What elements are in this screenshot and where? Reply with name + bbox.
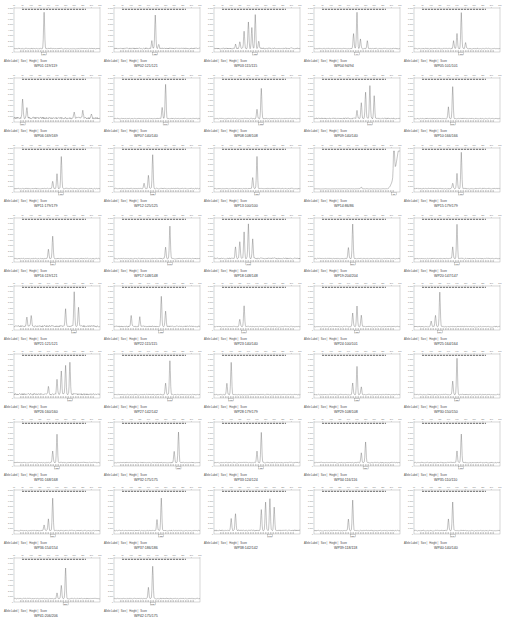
legend-label: Size | <box>21 542 27 545</box>
trace-plot: 608010012014016018020022024026001,0002,0… <box>104 2 204 60</box>
trace-plot: 608010012014016018020022024026001,0002,0… <box>204 280 304 338</box>
legend-label: Height | <box>429 338 438 341</box>
svg-text:1,000: 1,000 <box>8 595 14 598</box>
svg-text:3,000: 3,000 <box>108 380 114 383</box>
svg-text:6,000: 6,000 <box>408 158 414 161</box>
legend-line: Allele Label |Size |Height |Score <box>204 474 249 477</box>
svg-text:60: 60 <box>413 214 416 216</box>
chart-panel: 608010012014016018020022024026001,0002,0… <box>104 416 204 482</box>
svg-text:200: 200 <box>473 74 477 76</box>
svg-text:6,000: 6,000 <box>308 296 314 299</box>
svg-text:200: 200 <box>273 418 277 420</box>
svg-text:2,000: 2,000 <box>8 590 14 593</box>
svg-text:260: 260 <box>498 4 502 6</box>
svg-text:8,000: 8,000 <box>108 147 114 150</box>
svg-text:2,000: 2,000 <box>308 180 314 183</box>
svg-text:140: 140 <box>147 74 151 76</box>
legend-label: Size | <box>421 60 427 63</box>
svg-text:180: 180 <box>164 4 168 6</box>
svg-text:8,000: 8,000 <box>8 353 14 356</box>
svg-text:100: 100 <box>230 350 234 352</box>
legend-label: Size | <box>421 474 427 477</box>
legend-label: Height | <box>229 270 238 273</box>
svg-text:1,000: 1,000 <box>408 115 414 118</box>
svg-text:160: 160 <box>55 144 59 146</box>
svg-text:140: 140 <box>247 418 251 420</box>
legend-label: Size | <box>421 542 427 545</box>
svg-text:160: 160 <box>355 4 359 6</box>
svg-text:4,000: 4,000 <box>208 169 214 172</box>
chart-panel: 608010012014016018020022024026001,0002,0… <box>304 484 404 550</box>
svg-text:3,000: 3,000 <box>308 34 314 37</box>
svg-text:160: 160 <box>155 486 159 488</box>
svg-text:0: 0 <box>212 465 214 467</box>
svg-text:60: 60 <box>413 486 416 488</box>
svg-text:80: 80 <box>321 418 324 420</box>
chart-panel: 608010012014016018020022024026001,0002,0… <box>104 142 204 208</box>
plot-area <box>414 286 500 330</box>
svg-text:1,000: 1,000 <box>208 45 214 48</box>
svg-text:220: 220 <box>181 144 185 146</box>
svg-text:120: 120 <box>138 418 142 420</box>
plot-area <box>14 8 100 52</box>
svg-text:2,000: 2,000 <box>308 40 314 43</box>
svg-text:80: 80 <box>221 4 224 6</box>
legend-label: Score <box>340 338 347 341</box>
svg-text:180: 180 <box>364 4 368 6</box>
svg-text:166: 166 <box>451 123 454 125</box>
svg-text:260: 260 <box>98 282 102 284</box>
svg-text:5,000: 5,000 <box>8 93 14 96</box>
svg-text:80: 80 <box>121 74 124 76</box>
svg-text:6,000: 6,000 <box>8 88 14 91</box>
svg-text:6,000: 6,000 <box>208 364 214 367</box>
svg-text:200: 200 <box>173 144 177 146</box>
svg-text:6,000: 6,000 <box>108 158 114 161</box>
legend-label: Size | <box>121 270 127 273</box>
svg-text:260: 260 <box>198 4 202 6</box>
legend-label: Height | <box>329 270 338 273</box>
svg-text:120: 120 <box>138 214 142 216</box>
svg-text:220: 220 <box>81 4 85 6</box>
svg-text:3,000: 3,000 <box>208 516 214 519</box>
svg-text:3,000: 3,000 <box>308 244 314 247</box>
svg-text:160: 160 <box>255 144 259 146</box>
svg-text:120: 120 <box>438 74 442 76</box>
legend-label: Size | <box>321 200 327 203</box>
svg-text:0: 0 <box>312 121 314 123</box>
legend-label: Allele Label | <box>104 270 119 273</box>
plot-area <box>14 148 100 192</box>
svg-text:6,000: 6,000 <box>8 228 14 231</box>
svg-text:140: 140 <box>147 282 151 284</box>
svg-text:5,000: 5,000 <box>308 437 314 440</box>
sample-label: WP08:108/108 <box>234 134 258 138</box>
svg-text:120: 120 <box>38 350 42 352</box>
trace-plot: 608010012014016018020022024026001,0002,0… <box>404 142 504 200</box>
svg-text:140: 140 <box>347 418 351 420</box>
svg-text:140: 140 <box>447 144 451 146</box>
svg-text:4,000: 4,000 <box>108 99 114 102</box>
svg-text:3,000: 3,000 <box>308 448 314 451</box>
sample-label: WP42:175/175 <box>134 614 158 618</box>
chart-panel: 608010012014016018020022024026001,0002,0… <box>204 142 304 208</box>
plot-area <box>114 218 200 262</box>
svg-text:3,000: 3,000 <box>408 244 414 247</box>
svg-text:160: 160 <box>55 282 59 284</box>
svg-text:7,000: 7,000 <box>308 12 314 15</box>
svg-text:180: 180 <box>64 282 68 284</box>
svg-text:100: 100 <box>230 74 234 76</box>
svg-text:140: 140 <box>247 486 251 488</box>
svg-text:240: 240 <box>390 4 394 6</box>
trace-plot: 608010012014016018020022024026001,0002,0… <box>304 2 404 60</box>
legend-label: Score <box>240 60 247 63</box>
chart-panel: 608010012014016018020022024026001,0002,0… <box>104 2 204 68</box>
svg-text:1,000: 1,000 <box>208 459 214 462</box>
svg-text:100: 100 <box>430 144 434 146</box>
legend-label: Height | <box>329 542 338 545</box>
legend-label: Height | <box>29 406 38 409</box>
svg-text:260: 260 <box>98 214 102 216</box>
svg-text:115: 115 <box>254 53 257 55</box>
legend-line: Allele Label |Size |Height |Score <box>4 338 49 341</box>
chart-panel: 608010012014016018020022024026001,0002,0… <box>404 212 504 278</box>
svg-text:200: 200 <box>73 282 77 284</box>
svg-text:60: 60 <box>313 144 316 146</box>
